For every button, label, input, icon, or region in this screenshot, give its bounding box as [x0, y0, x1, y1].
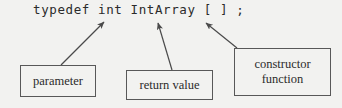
label-text-function: function — [262, 72, 304, 87]
label-text-parameter: parameter — [33, 74, 83, 89]
arrow-constructor-function-to-brackets — [206, 23, 237, 48]
label-box-parameter: parameter — [20, 65, 96, 97]
label-text-constructor: constructor — [254, 57, 310, 72]
typedef-annotation-diagram: typedef int IntArray [ ] ; parameter ret… — [0, 0, 342, 108]
arrow-return-value-to-int — [158, 23, 172, 70]
label-box-return-value: return value — [126, 70, 213, 100]
label-box-constructor-function: constructor function — [234, 48, 331, 96]
label-text-return-value: return value — [139, 78, 199, 93]
arrow-parameter-to-intarray — [61, 22, 104, 65]
